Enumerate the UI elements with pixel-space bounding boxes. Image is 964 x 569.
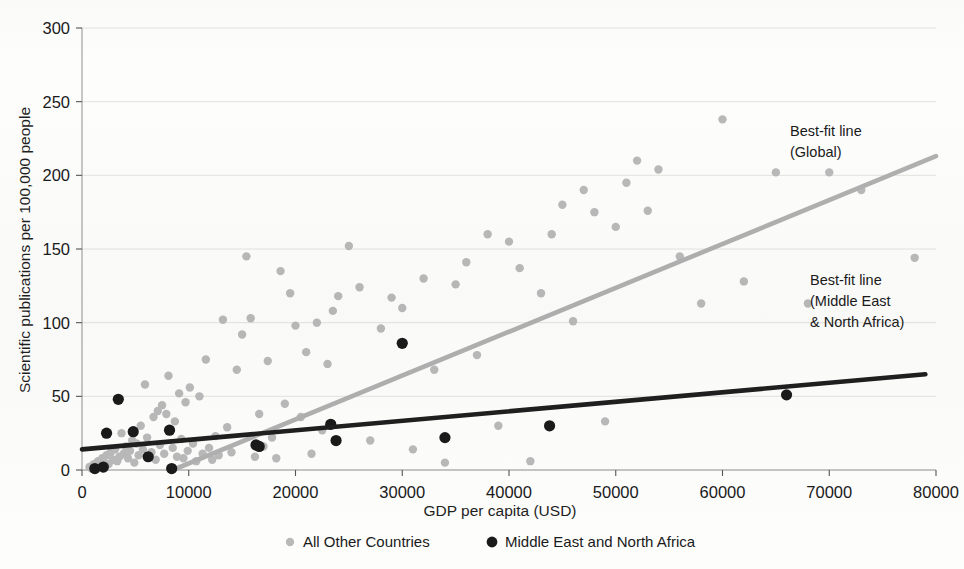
- data-point: [330, 435, 341, 446]
- data-point: [825, 168, 833, 176]
- data-point: [430, 366, 438, 374]
- y-tick-labels: 050100150200250300: [42, 19, 70, 479]
- legend-label: All Other Countries: [303, 533, 430, 550]
- data-point: [451, 280, 459, 288]
- data-point: [526, 457, 534, 465]
- data-point: [169, 444, 177, 452]
- data-point: [130, 458, 138, 466]
- data-point: [272, 454, 280, 462]
- data-point: [697, 299, 705, 307]
- data-point: [219, 316, 227, 324]
- data-point: [141, 380, 149, 388]
- data-point: [366, 436, 374, 444]
- data-point: [622, 179, 630, 187]
- chart-canvas: 050100150200250300 010000200003000040000…: [0, 0, 964, 569]
- mena-annot-line: & North Africa): [810, 314, 904, 330]
- data-point: [580, 186, 588, 194]
- data-point: [409, 445, 417, 453]
- y-tick-label: 250: [42, 93, 70, 111]
- x-axis-title: GDP per capita (USD): [423, 502, 576, 519]
- data-point: [772, 168, 780, 176]
- data-point: [505, 237, 513, 245]
- gridlines: [82, 28, 936, 470]
- data-point: [186, 383, 194, 391]
- trendline-mena: [82, 374, 925, 449]
- data-point: [183, 447, 191, 455]
- x-tick-label: 60000: [700, 483, 746, 501]
- mena-annot-line: Best-fit line: [810, 272, 882, 288]
- trendline-annotations: Best-fit line(Global)Best-fit line(Middl…: [790, 123, 904, 330]
- data-point: [160, 450, 168, 458]
- data-point: [740, 277, 748, 285]
- data-point: [654, 165, 662, 173]
- data-point: [255, 410, 263, 418]
- data-point: [113, 394, 124, 405]
- data-point: [254, 441, 265, 452]
- data-point: [281, 400, 289, 408]
- global-annot-line: Best-fit line: [790, 123, 862, 139]
- data-point: [181, 398, 189, 406]
- data-point: [548, 230, 556, 238]
- data-point: [302, 348, 310, 356]
- data-point: [718, 115, 726, 123]
- data-point: [398, 304, 406, 312]
- scatter-chart: 050100150200250300 010000200003000040000…: [0, 0, 964, 569]
- data-point: [175, 389, 183, 397]
- global-annot-line: (Global): [790, 144, 842, 160]
- mena-annot-line: (Middle East: [810, 293, 891, 309]
- data-point: [355, 283, 363, 291]
- data-point: [313, 318, 321, 326]
- data-point: [537, 289, 545, 297]
- x-tick-label: 80000: [913, 483, 959, 501]
- legend-label: Middle East and North Africa: [505, 533, 696, 550]
- data-point: [473, 351, 481, 359]
- x-tick-label: 10000: [166, 483, 212, 501]
- data-point: [242, 252, 250, 260]
- data-point: [515, 264, 523, 272]
- data-point: [910, 254, 918, 262]
- x-tick-label: 50000: [593, 483, 639, 501]
- y-tick-label: 0: [61, 461, 70, 479]
- data-point: [633, 156, 641, 164]
- data-point: [544, 420, 555, 431]
- data-point: [233, 366, 241, 374]
- data-point: [590, 208, 598, 216]
- data-point: [98, 461, 109, 472]
- data-point: [494, 422, 502, 430]
- data-point: [569, 317, 577, 325]
- data-point: [307, 450, 315, 458]
- data-point: [419, 274, 427, 282]
- data-point: [644, 206, 652, 214]
- data-point: [323, 360, 331, 368]
- data-point: [612, 223, 620, 231]
- data-point: [101, 428, 112, 439]
- x-tick-label: 70000: [806, 483, 852, 501]
- data-point: [462, 258, 470, 266]
- data-point: [264, 357, 272, 365]
- data-point: [171, 417, 179, 425]
- legend-marker: [286, 538, 294, 546]
- x-tick-label: 40000: [486, 483, 532, 501]
- data-point: [441, 458, 449, 466]
- mena-best-fit-line: [82, 374, 925, 449]
- data-point: [126, 447, 134, 455]
- data-point: [286, 289, 294, 297]
- data-point: [251, 453, 259, 461]
- x-tick-labels: 0100002000030000400005000060000700008000…: [77, 483, 959, 501]
- data-point: [291, 321, 299, 329]
- data-point: [164, 372, 172, 380]
- data-point: [781, 389, 792, 400]
- data-point: [387, 293, 395, 301]
- data-point: [238, 330, 246, 338]
- series-all-other-countries: [85, 115, 919, 473]
- data-point: [223, 423, 231, 431]
- data-point: [345, 242, 353, 250]
- axes: [76, 28, 936, 476]
- x-tick-label: 20000: [273, 483, 319, 501]
- y-tick-label: 300: [42, 19, 70, 37]
- data-point: [377, 324, 385, 332]
- data-point: [205, 444, 213, 452]
- data-point: [117, 429, 125, 437]
- data-point: [329, 307, 337, 315]
- x-tick-label: 30000: [379, 483, 425, 501]
